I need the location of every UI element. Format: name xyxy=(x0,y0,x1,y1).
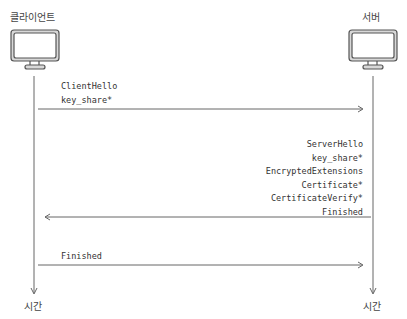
message-server-hello: ServerHello key_share* EncryptedExtensio… xyxy=(266,138,363,220)
message-line: CertificateVerify* xyxy=(266,192,363,206)
client-label: 클라이언트 xyxy=(10,9,55,24)
client-time-label: 시간 xyxy=(24,298,42,313)
message-line: EncryptedExtensions xyxy=(266,165,363,179)
server-monitor-icon xyxy=(349,30,397,69)
message-line: Finished xyxy=(61,250,102,264)
message-line: ServerHello xyxy=(266,138,363,152)
server-lifeline xyxy=(370,76,376,294)
message-line: key_share* xyxy=(61,94,117,108)
server-label: 서버 xyxy=(362,9,380,24)
client-monitor-icon xyxy=(11,30,59,69)
server-time-label: 시간 xyxy=(363,298,381,313)
message-line: Finished xyxy=(266,206,363,220)
message-client-hello: ClientHello key_share* xyxy=(61,80,117,107)
message-line: ClientHello xyxy=(61,80,117,94)
client-lifeline xyxy=(31,76,37,294)
message-client-finished: Finished xyxy=(61,250,102,264)
message-line: Certificate* xyxy=(266,179,363,193)
message-line: key_share* xyxy=(266,152,363,166)
